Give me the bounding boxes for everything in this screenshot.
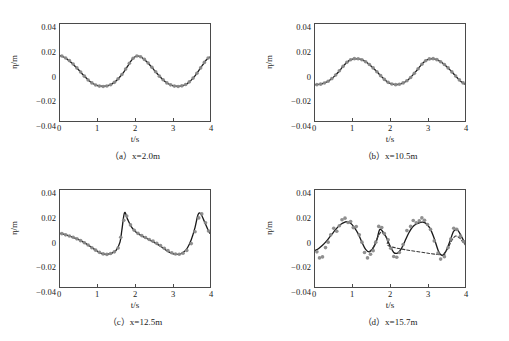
plot-svg-b [315, 24, 465, 121]
plot-area-b [314, 23, 466, 122]
x-axis-label-a: t/s [131, 134, 140, 144]
panel-c: η/m 0.04 0.02 0 −0.02 −0.04 0 1 2 3 4 t/… [0, 166, 254, 336]
data-markers-d [315, 216, 465, 261]
solid-curve-c [60, 212, 210, 254]
x-tick-2-a: 2 [133, 124, 137, 133]
x-tick-2-b: 2 [388, 124, 392, 133]
panel-a: η/m 0.04 0.02 0 −0.02 −0.04 0 1 2 3 4 t/… [0, 0, 254, 170]
x-tick-1-c: 1 [95, 290, 99, 299]
y-tick-labels-b: 0.04 0.02 0 −0.02 −0.04 [273, 23, 311, 122]
solid-curve-a [60, 56, 210, 87]
plot-area-c [59, 189, 211, 288]
plot-svg-d [315, 190, 465, 287]
x-tick-0-d: 0 [312, 290, 316, 299]
x-tick-3-d: 3 [426, 290, 430, 299]
data-markers-b [315, 57, 465, 87]
y-tick-labels-d: 0.04 0.02 0 −0.02 −0.04 [273, 189, 311, 288]
x-tick-2-c: 2 [133, 290, 137, 299]
caption-b: （b）x=10.5m [363, 149, 418, 162]
x-tick-0-c: 0 [57, 290, 61, 299]
x-tick-1-b: 1 [350, 124, 354, 133]
x-tick-1-d: 1 [350, 290, 354, 299]
plot-svg-c [60, 190, 210, 287]
y-tick-labels-a: 0.04 0.02 0 −0.02 −0.04 [18, 23, 56, 122]
caption-c: （c）x=12.5m [108, 315, 162, 328]
plot-area-d [314, 189, 466, 288]
x-tick-3-c: 3 [171, 290, 175, 299]
x-tick-3-a: 3 [171, 124, 175, 133]
x-axis-label-b: t/s [386, 134, 395, 144]
x-axis-label-d: t/s [386, 300, 395, 310]
solid-curve-d [315, 222, 465, 256]
x-tick-3-b: 3 [426, 124, 430, 133]
figure-panel-grid: η/m 0.04 0.02 0 −0.02 −0.04 0 1 2 3 4 t/… [0, 0, 509, 341]
plot-area-a [59, 23, 211, 122]
solid-curve-b [315, 59, 465, 85]
x-tick-0-b: 0 [312, 124, 316, 133]
x-tick-4-b: 4 [464, 124, 468, 133]
plot-svg-a [60, 24, 210, 121]
x-tick-1-a: 1 [95, 124, 99, 133]
caption-a: （a）x=2.0m [110, 149, 160, 162]
y-tick-labels-c: 0.04 0.02 0 −0.02 −0.04 [18, 189, 56, 288]
panel-b: η/m 0.04 0.02 0 −0.02 −0.04 0 1 2 3 4 t/… [255, 0, 509, 170]
x-tick-4-d: 4 [464, 290, 468, 299]
data-markers-c [60, 212, 210, 256]
x-tick-0-a: 0 [57, 124, 61, 133]
x-axis-label-c: t/s [131, 300, 140, 310]
x-tick-2-d: 2 [388, 290, 392, 299]
caption-d: （d）x=15.7m [363, 315, 418, 328]
x-tick-4-c: 4 [209, 290, 213, 299]
panel-d: η/m 0.04 0.02 0 −0.02 −0.04 0 1 2 3 4 t/… [255, 166, 509, 336]
x-tick-4-a: 4 [209, 124, 213, 133]
dashed-curve-d [369, 232, 465, 255]
